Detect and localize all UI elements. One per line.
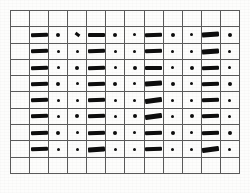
grid-row: [11, 108, 240, 124]
grid-cell: [182, 125, 201, 141]
dot-mark-icon: [190, 99, 193, 102]
grid-cell: [106, 141, 125, 157]
grid-cell: [125, 108, 144, 124]
grid-cell: [30, 157, 49, 173]
dash-mark-icon: [88, 49, 105, 54]
grid-cell: [220, 92, 239, 108]
dash-mark-icon: [202, 130, 219, 135]
dash-mark-icon: [145, 113, 162, 120]
dot-mark-icon: [228, 66, 231, 69]
grid-cell: [182, 59, 201, 75]
grid-cell: [125, 125, 144, 141]
dash-mark-icon: [202, 114, 219, 119]
dot-mark-icon: [113, 82, 117, 86]
grid-cell: [49, 59, 68, 75]
grid-cell: [87, 11, 106, 27]
grid-cell: [30, 59, 49, 75]
grid-cell: [49, 157, 68, 173]
dot-mark-icon: [228, 50, 231, 53]
grid-cell: [201, 125, 220, 141]
grid-cell: [87, 27, 106, 43]
grid-cell: [182, 76, 201, 92]
dot-mark-icon: [228, 115, 231, 118]
grid-cell: [68, 125, 87, 141]
dot-mark-icon: [114, 148, 117, 151]
grid-cell: [163, 11, 182, 27]
dash-mark-icon: [202, 32, 219, 38]
dot-mark-icon: [228, 148, 231, 151]
grid-cell: [49, 76, 68, 92]
grid-cell: [68, 157, 87, 173]
grid-cell: [182, 92, 201, 108]
grid-cell: [163, 141, 182, 157]
grid-cell: [68, 43, 87, 59]
grid-cell: [68, 141, 87, 157]
grid-cell: [144, 92, 163, 108]
grid-cell: [87, 108, 106, 124]
dash-mark-icon: [31, 147, 48, 152]
grid-cell: [163, 157, 182, 173]
dot-mark-icon: [190, 114, 194, 118]
dot-mark-icon: [190, 33, 193, 36]
grid-cell: [49, 43, 68, 59]
grid-cell: [30, 76, 49, 92]
grid-cell: [11, 125, 30, 141]
dot-mark-icon: [190, 148, 193, 151]
dot-mark-icon: [171, 82, 175, 86]
grid-row: [11, 141, 240, 157]
grid-cell: [144, 59, 163, 75]
grid-cell: [144, 43, 163, 59]
dot-mark-icon: [57, 66, 60, 69]
dot-mark-icon: [57, 99, 60, 102]
grid-cell: [30, 11, 49, 27]
grid-cell: [30, 43, 49, 59]
grid-cell: [68, 27, 87, 43]
grid-cell: [201, 141, 220, 157]
dot-mark-icon: [228, 131, 232, 135]
dot-mark-icon: [113, 33, 117, 37]
grid-row: [11, 92, 240, 108]
grid-cell: [125, 11, 144, 27]
grid-cell: [125, 92, 144, 108]
dash-mark-icon: [88, 98, 105, 103]
grid-cell: [182, 11, 201, 27]
grid-cell: [87, 76, 106, 92]
grid-row: [11, 43, 240, 59]
dash-mark-icon: [145, 81, 162, 87]
tick-mark-icon: [74, 32, 80, 37]
grid-cell: [106, 157, 125, 173]
grid-cell: [125, 43, 144, 59]
dash-mark-icon: [145, 49, 162, 54]
grid-cell: [87, 92, 106, 108]
dash-mark-icon: [202, 65, 219, 70]
grid-cell: [163, 125, 182, 141]
dot-mark-icon: [56, 82, 60, 86]
grid-cell: [68, 59, 87, 75]
dot-mark-icon: [114, 99, 117, 102]
grid-cell: [220, 27, 239, 43]
grid-cell: [220, 108, 239, 124]
dot-mark-icon: [57, 148, 60, 151]
grid-cell: [144, 76, 163, 92]
grid-cell: [220, 76, 239, 92]
dash-mark-icon: [31, 114, 48, 119]
dot-mark-icon: [133, 131, 136, 134]
grid-cell: [220, 43, 239, 59]
grid-cell: [163, 108, 182, 124]
dot-mark-icon: [75, 114, 79, 118]
dot-mark-icon: [190, 66, 194, 70]
dot-mark-icon: [171, 115, 174, 118]
grid-cell: [182, 43, 201, 59]
grid-cell: [163, 59, 182, 75]
grid-cell: [125, 27, 144, 43]
grid-cell: [220, 59, 239, 75]
grid-cell: [220, 157, 239, 173]
grid-cell: [11, 157, 30, 173]
grid-cell: [163, 43, 182, 59]
grid-cell: [106, 59, 125, 75]
dot-mark-icon: [75, 66, 79, 70]
dash-mark-icon: [202, 145, 219, 152]
grid-cell: [30, 108, 49, 124]
dot-mark-icon: [57, 50, 60, 53]
grid-cell: [87, 43, 106, 59]
